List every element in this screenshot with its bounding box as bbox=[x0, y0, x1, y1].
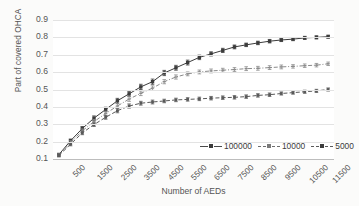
data-point-marker bbox=[268, 93, 271, 96]
data-point-marker bbox=[233, 45, 236, 48]
gridline bbox=[53, 37, 334, 38]
y-tick-label: 0.1 bbox=[22, 154, 48, 163]
data-point-marker bbox=[116, 99, 119, 102]
y-tick-label: 0.6 bbox=[22, 67, 48, 76]
x-axis-title: Number of AEDs bbox=[53, 186, 334, 196]
data-point-marker bbox=[292, 91, 295, 94]
legend-item-5000[interactable]: 5000 bbox=[311, 141, 356, 151]
data-point-marker bbox=[151, 101, 154, 104]
y-axis-tick-labels: 0.10.20.30.40.50.60.70.80.9 bbox=[24, 0, 48, 206]
y-tick-label: 0.8 bbox=[22, 32, 48, 41]
x-tick-label: 500 bbox=[71, 163, 87, 179]
gridline bbox=[53, 20, 334, 21]
x-tick-label: 11500 bbox=[331, 163, 353, 185]
data-point-marker bbox=[104, 116, 107, 119]
gridline bbox=[53, 55, 334, 56]
legend-label: 10000 bbox=[282, 141, 305, 151]
gridline bbox=[53, 90, 334, 91]
legend-label: 5000 bbox=[335, 141, 354, 151]
data-point-marker bbox=[280, 38, 283, 41]
legend-marker-icon bbox=[267, 144, 271, 148]
x-tick-label: 2500 bbox=[119, 163, 138, 182]
data-point-marker bbox=[57, 154, 60, 157]
x-tick-label: 6500 bbox=[213, 163, 232, 182]
data-point-marker bbox=[244, 43, 247, 46]
data-point-marker bbox=[233, 96, 236, 99]
data-point-marker bbox=[198, 97, 201, 100]
chart-legend: 100000100005000 bbox=[200, 139, 359, 153]
legend-line-icon bbox=[325, 146, 333, 147]
x-tick-label: 5500 bbox=[189, 163, 208, 182]
y-tick-label: 0.5 bbox=[22, 85, 48, 94]
gridline bbox=[53, 72, 334, 73]
y-tick-label: 0.9 bbox=[22, 15, 48, 24]
data-point-marker bbox=[198, 56, 201, 59]
x-tick-label: 3500 bbox=[142, 163, 161, 182]
gridline bbox=[53, 107, 334, 108]
data-point-marker bbox=[221, 49, 224, 52]
data-point-marker bbox=[245, 95, 248, 98]
legend-line-icon bbox=[200, 146, 208, 147]
legend-item-10000[interactable]: 10000 bbox=[258, 141, 307, 151]
data-point-marker bbox=[127, 92, 130, 95]
data-point-marker bbox=[163, 100, 166, 103]
data-point-marker bbox=[104, 108, 107, 111]
x-tick-label: 7500 bbox=[236, 163, 255, 182]
data-point-marker bbox=[256, 41, 259, 44]
data-point-marker bbox=[175, 99, 178, 102]
data-point-marker bbox=[174, 66, 177, 69]
data-point-marker bbox=[139, 85, 142, 88]
legend-line-icon bbox=[272, 146, 280, 147]
legend-item-100000[interactable]: 100000 bbox=[200, 141, 254, 151]
data-point-marker bbox=[139, 102, 142, 105]
data-point-marker bbox=[186, 98, 189, 101]
legend-marker-icon bbox=[320, 144, 324, 148]
legend-line-icon bbox=[258, 146, 266, 147]
data-point-marker bbox=[151, 80, 154, 83]
x-tick-label: 9500 bbox=[283, 163, 302, 182]
data-point-marker bbox=[280, 92, 283, 95]
y-tick-label: 0.7 bbox=[22, 50, 48, 59]
gridline bbox=[53, 124, 334, 125]
data-point-marker bbox=[257, 94, 260, 97]
legend-line-icon bbox=[214, 146, 222, 147]
x-tick-label: 4500 bbox=[166, 163, 185, 182]
legend-marker-icon bbox=[209, 144, 213, 148]
data-point-marker bbox=[186, 61, 189, 64]
data-point-marker bbox=[221, 96, 224, 99]
y-tick-label: 0.4 bbox=[22, 102, 48, 111]
y-tick-label: 0.3 bbox=[22, 119, 48, 128]
x-tick-label: 1500 bbox=[96, 163, 115, 182]
data-point-marker bbox=[69, 143, 72, 146]
x-axis-line bbox=[53, 159, 334, 160]
legend-label: 100000 bbox=[224, 141, 252, 151]
y-tick-label: 0.2 bbox=[22, 137, 48, 146]
data-point-marker bbox=[268, 40, 271, 43]
data-point-marker bbox=[116, 109, 119, 112]
data-point-marker bbox=[210, 97, 213, 100]
data-point-marker bbox=[81, 132, 84, 135]
legend-line-icon bbox=[311, 146, 319, 147]
x-tick-label: 8500 bbox=[260, 163, 279, 182]
x-tick-label: 10500 bbox=[308, 163, 330, 185]
